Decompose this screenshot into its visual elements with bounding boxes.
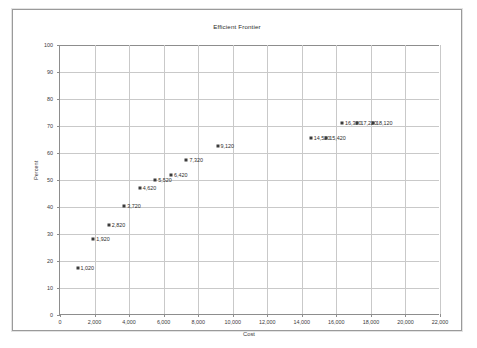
data-point-label: 4,620 xyxy=(143,185,157,191)
x-axis-tick xyxy=(267,314,268,317)
x-axis-tick xyxy=(60,314,61,317)
data-point-label: 6,420 xyxy=(174,172,188,178)
y-axis-tick xyxy=(57,99,60,100)
data-point-marker[interactable] xyxy=(356,122,359,125)
data-point-marker[interactable] xyxy=(138,187,141,190)
gridline-horizontal xyxy=(60,99,439,100)
y-axis-tick-label: 80 xyxy=(47,96,53,102)
data-point-marker[interactable] xyxy=(309,137,312,140)
data-point-marker[interactable] xyxy=(185,158,188,161)
data-point-marker[interactable] xyxy=(216,145,219,148)
x-axis-tick-label: 22,000 xyxy=(432,319,449,325)
y-axis-tick xyxy=(57,207,60,208)
data-point-label: 2,820 xyxy=(112,222,126,228)
y-axis-tick-label: 70 xyxy=(47,123,53,129)
gridline-horizontal xyxy=(60,234,439,235)
y-axis-tick xyxy=(57,288,60,289)
data-point-marker[interactable] xyxy=(76,266,79,269)
data-point-label: 9,120 xyxy=(221,143,235,149)
x-axis-tick-label: 4,000 xyxy=(122,319,136,325)
data-point-marker[interactable] xyxy=(371,122,374,125)
x-axis-tick-label: 2,000 xyxy=(88,319,102,325)
gridline-vertical xyxy=(198,45,199,314)
chart-title: Efficient Frontier xyxy=(13,23,461,30)
y-axis-tick xyxy=(57,126,60,127)
y-axis-tick-label: 100 xyxy=(44,42,53,48)
x-axis-tick xyxy=(198,314,199,317)
y-axis-tick xyxy=(57,153,60,154)
data-point-marker[interactable] xyxy=(169,173,172,176)
chart-sheet: Efficient Frontier Percent 0102030405060… xyxy=(12,9,462,331)
y-axis-tick xyxy=(57,261,60,262)
x-axis-tick-label: 20,000 xyxy=(397,319,414,325)
y-axis-tick-label: 40 xyxy=(47,204,53,210)
y-axis-tick-label: 50 xyxy=(47,177,53,183)
y-axis-tick-label: 10 xyxy=(47,285,53,291)
x-axis-tick-label: 8,000 xyxy=(191,319,205,325)
gridline-vertical xyxy=(302,45,303,314)
x-axis-tick-label: 16,000 xyxy=(328,319,345,325)
data-point-marker[interactable] xyxy=(92,238,95,241)
y-axis-tick-label: 20 xyxy=(47,258,53,264)
gridline-vertical xyxy=(233,45,234,314)
y-axis-tick-label: 0 xyxy=(50,312,53,318)
gridline-vertical xyxy=(440,45,441,314)
data-point-label: 1,020 xyxy=(81,265,95,271)
gridline-horizontal xyxy=(60,207,439,208)
data-point-label: 15,420 xyxy=(329,135,346,141)
gridline-vertical xyxy=(267,45,268,314)
plot-area: 010203040506070809010002,0004,0006,0008,… xyxy=(59,45,439,315)
x-axis-title: Cost xyxy=(59,331,439,337)
gridline-horizontal xyxy=(60,72,439,73)
gridline-horizontal xyxy=(60,45,439,46)
screenshot-page: Efficient Frontier Percent 0102030405060… xyxy=(0,0,477,348)
data-point-label: 18,120 xyxy=(376,120,393,126)
x-axis-tick xyxy=(371,314,372,317)
gridline-vertical xyxy=(95,45,96,314)
x-axis-tick xyxy=(164,314,165,317)
y-axis-tick xyxy=(57,180,60,181)
data-point-label: 7,320 xyxy=(189,157,203,163)
x-axis-tick-label: 12,000 xyxy=(259,319,276,325)
x-axis-tick xyxy=(233,314,234,317)
x-axis-tick-label: 10,000 xyxy=(224,319,241,325)
y-axis-tick-label: 60 xyxy=(47,150,53,156)
x-axis-tick xyxy=(440,314,441,317)
gridline-horizontal xyxy=(60,153,439,154)
x-axis-tick xyxy=(405,314,406,317)
gridline-vertical xyxy=(371,45,372,314)
gridline-vertical xyxy=(129,45,130,314)
data-point-label: 5,520 xyxy=(158,177,172,183)
data-point-marker[interactable] xyxy=(325,137,328,140)
data-point-marker[interactable] xyxy=(154,179,157,182)
gridline-horizontal xyxy=(60,180,439,181)
data-point-marker[interactable] xyxy=(107,223,110,226)
data-point-marker[interactable] xyxy=(123,204,126,207)
gridline-vertical xyxy=(336,45,337,314)
x-axis-tick-label: 6,000 xyxy=(157,319,171,325)
x-axis-tick-label: 14,000 xyxy=(294,319,311,325)
y-axis-title: Percent xyxy=(33,161,39,180)
x-axis-tick xyxy=(129,314,130,317)
x-axis-tick xyxy=(95,314,96,317)
x-axis-tick-label: 0 xyxy=(59,319,62,325)
x-axis-tick xyxy=(302,314,303,317)
data-point-label: 1,920 xyxy=(96,236,110,242)
x-axis-tick xyxy=(336,314,337,317)
y-axis-tick-label: 90 xyxy=(47,69,53,75)
y-axis-tick-label: 30 xyxy=(47,231,53,237)
gridline-horizontal xyxy=(60,288,439,289)
y-axis-tick xyxy=(57,45,60,46)
data-point-marker[interactable] xyxy=(340,122,343,125)
y-axis-tick xyxy=(57,234,60,235)
gridline-horizontal xyxy=(60,261,439,262)
x-axis-tick-label: 18,000 xyxy=(363,319,380,325)
y-axis-tick xyxy=(57,72,60,73)
data-point-label: 3,720 xyxy=(127,203,141,209)
gridline-vertical xyxy=(405,45,406,314)
